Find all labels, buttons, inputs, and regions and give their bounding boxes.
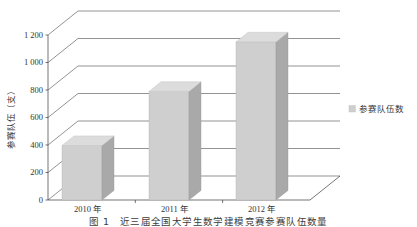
bar-2011[interactable] bbox=[149, 82, 201, 200]
y-tick-label-200: 200 bbox=[30, 167, 43, 177]
y-tick-label-1000: 1 000 bbox=[24, 57, 43, 67]
legend-swatch-icon bbox=[349, 106, 356, 113]
y-tick-label-400: 400 bbox=[30, 140, 43, 150]
figure-caption-clip: 图 1 近三届全国大学生数学建模竞赛参赛队伍数量 bbox=[0, 214, 417, 227]
y-axis-title: 参赛队伍（支） bbox=[6, 86, 16, 149]
y-tick-label-800: 800 bbox=[30, 85, 43, 95]
legend-label: 参赛队伍数 bbox=[359, 104, 404, 114]
x-category-label-2010: 2010 年 bbox=[74, 204, 102, 214]
bar-2010[interactable] bbox=[62, 136, 114, 200]
figure-caption: 图 1 近三届全国大学生数学建模竞赛参赛队伍数量 bbox=[0, 214, 417, 227]
x-category-label-2011: 2011 年 bbox=[161, 204, 189, 214]
x-tick-marks bbox=[135, 200, 222, 203]
bar-chart-3d: 0 200 400 600 800 1 000 1 200 参赛队伍（支） 2 bbox=[0, 0, 417, 227]
bar-2012[interactable] bbox=[236, 32, 288, 200]
chart-figure: 0 200 400 600 800 1 000 1 200 参赛队伍（支） 2 bbox=[0, 0, 417, 227]
chart-legend[interactable]: 参赛队伍数 bbox=[349, 104, 404, 114]
y-tick-label-600: 600 bbox=[30, 112, 43, 122]
y-tick-label-0: 0 bbox=[39, 195, 43, 205]
y-tick-label-1200: 1 200 bbox=[24, 30, 43, 40]
y-tick-marks bbox=[46, 35, 49, 200]
x-category-label-2012: 2012 年 bbox=[248, 204, 276, 214]
